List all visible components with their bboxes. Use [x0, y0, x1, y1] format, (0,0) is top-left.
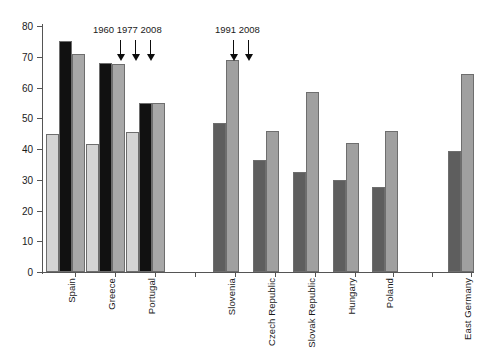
- bar-hungary-2008: [346, 143, 359, 272]
- bar-poland-1991: [372, 187, 385, 272]
- x-label-portugal: Portugal: [146, 278, 157, 314]
- bar-portugal-2008: [152, 103, 165, 272]
- x-tick-hungary: [355, 272, 356, 277]
- x-label-east-germany: East Germany: [462, 278, 473, 340]
- bar-greece-1960: [86, 144, 99, 272]
- y-tick-label-60: 60: [22, 82, 33, 93]
- x-label-hungary: Hungary: [346, 278, 357, 315]
- y-tick-label-10: 10: [22, 236, 33, 247]
- bar-east-germany-1991: [448, 151, 461, 273]
- x-label-slovak-republic: Slovak Republic: [306, 278, 317, 348]
- y-tick-label-30: 30: [22, 174, 33, 185]
- x-axis-line: [42, 272, 474, 273]
- bar-slovak-republic-2008: [306, 92, 319, 272]
- y-tick-label-50: 50: [22, 113, 33, 124]
- bar-portugal-1960: [126, 132, 139, 272]
- x-tick-poland: [393, 272, 394, 277]
- bar-portugal-1977: [139, 103, 152, 272]
- x-label-slovenia: Slovenia: [226, 278, 237, 315]
- bar-spain-2008: [72, 54, 85, 272]
- bar-slovenia-1991: [213, 123, 226, 272]
- bar-greece-1977: [99, 63, 112, 272]
- y-tick-label-40: 40: [22, 144, 33, 155]
- bar-greece-2008: [112, 64, 125, 272]
- bar-slovenia-2008: [226, 60, 239, 272]
- y-tick-label-0: 0: [27, 267, 33, 278]
- bar-czech-republic-2008: [266, 131, 279, 273]
- bar-spain-1960: [46, 134, 59, 272]
- x-tick-czech-republic: [275, 272, 276, 277]
- bar-czech-republic-1991: [253, 160, 266, 272]
- y-tick-label-20: 20: [22, 205, 33, 216]
- annotation-label-west-years: 1960 1977 2008: [93, 24, 162, 35]
- bar-slovak-republic-1991: [293, 172, 306, 272]
- x-label-greece: Greece: [106, 278, 117, 310]
- x-tick-slovenia: [235, 272, 236, 277]
- x-tick-gap-2: [432, 272, 433, 277]
- x-tick-greece: [115, 272, 116, 277]
- x-tick-gap-1: [195, 272, 196, 277]
- bar-poland-2008: [385, 131, 398, 273]
- x-tick-spain: [75, 272, 76, 277]
- x-tick-portugal: [155, 272, 156, 277]
- x-tick-slovak-republic: [315, 272, 316, 277]
- y-tick-label-70: 70: [22, 51, 33, 62]
- plot-area: [42, 26, 472, 272]
- y-tick-label-80: 80: [22, 21, 33, 32]
- annotation-label-east-years: 1991 2008: [215, 24, 260, 35]
- bar-spain-1977: [59, 41, 72, 272]
- bar-hungary-1991: [333, 180, 346, 272]
- x-label-poland: Poland: [384, 278, 395, 308]
- bar-chart: 0 10 20 30 40 50 60 70 80: [0, 0, 480, 358]
- x-label-spain: Spain: [66, 278, 77, 303]
- x-tick-east-germany: [471, 272, 472, 277]
- x-label-czech-republic: Czech Republic: [266, 278, 277, 346]
- bar-east-germany-2008: [461, 74, 474, 272]
